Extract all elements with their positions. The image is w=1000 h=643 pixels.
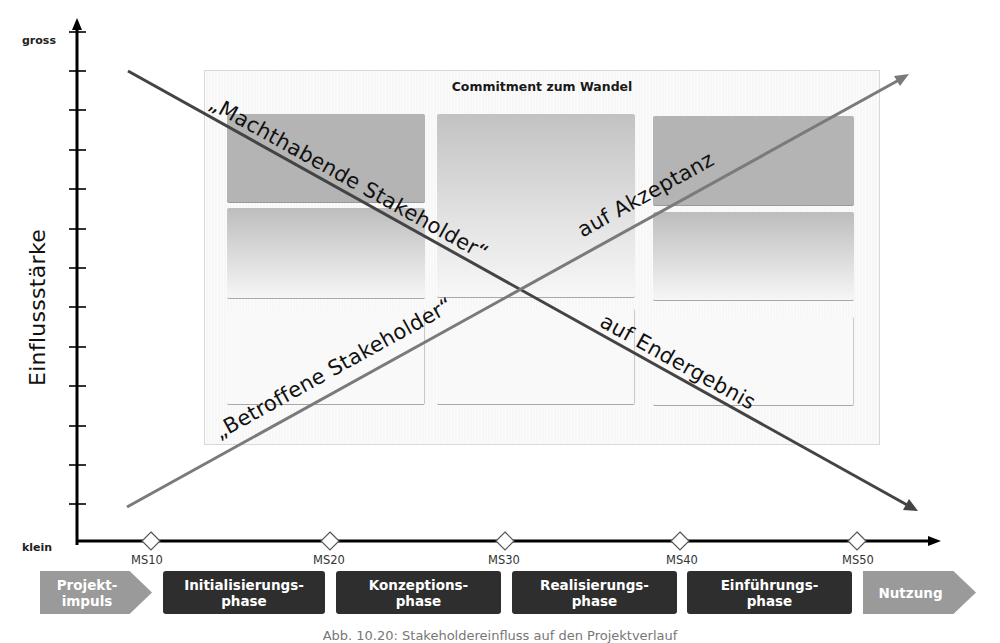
milestone-label: MS30 [488,553,520,567]
phase-label-line1: Einführungs- [721,577,819,593]
milestone-diamond-icon [848,532,866,550]
phase-label-line1: Projekt- [57,577,118,593]
milestone-label: MS20 [313,553,345,567]
phase-label-line2: impuls [57,593,118,609]
milestone-label: MS40 [666,553,698,567]
figure-caption: Abb. 10.20: Stakeholdereinfluss auf den … [0,628,1000,643]
phase-projektimpuls: Projekt-impuls [40,571,152,614]
phase-label-line2: phase [369,593,468,609]
phase-konzeption: Konzeptions-phase [336,571,501,614]
milestone-label: MS10 [131,553,163,567]
phase-label-line2: phase [721,593,819,609]
milestone-diamond-icon [496,532,514,550]
phase-label-line2: phase [540,593,649,609]
milestone-diamond-icon [321,532,339,550]
milestone-label: MS50 [842,553,874,567]
phase-nutzung: Nutzung [863,571,976,614]
phase-realisierung: Realisierungs-phase [512,571,677,614]
phase-label-line1: Nutzung [878,585,942,601]
phase-label-line1: Realisierungs- [540,577,649,593]
phase-einfuehrung: Einführungs-phase [687,571,852,614]
phase-label-line2: phase [184,593,304,609]
milestone-diamond-icon [142,532,160,550]
milestone-diamond-icon [671,532,689,550]
phase-initialisierung: Initialisierungs-phase [163,571,325,614]
phase-label-line1: Konzeptions- [369,577,468,593]
phase-label-line1: Initialisierungs- [184,577,304,593]
